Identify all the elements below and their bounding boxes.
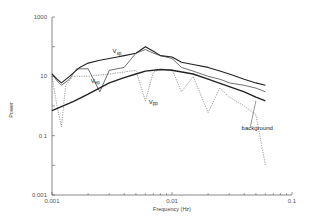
annotations: VspVepVppbackground	[91, 48, 273, 131]
y-tick-label: 0.1	[39, 133, 48, 139]
annotation-label: background	[242, 125, 273, 131]
annotation-label: Vep	[91, 78, 101, 86]
y-axis: 0.0010.1101000	[32, 14, 55, 198]
series-v-ep	[52, 50, 265, 92]
y-axis-title: Power	[8, 102, 14, 118]
y-tick-label: 1000	[34, 14, 48, 20]
x-axis: 0.0010.010.1	[44, 192, 296, 204]
annotation-label: Vpp	[149, 99, 159, 107]
x-tick-label: 0.001	[44, 198, 60, 204]
x-tick-label: 0.01	[166, 198, 178, 204]
plot-area	[52, 47, 265, 166]
series-v-sp	[52, 47, 265, 86]
x-axis-title: Frequency (Hz)	[153, 206, 191, 212]
y-tick-label: 10	[40, 73, 47, 79]
power-spectrum-chart: 0.0010.1101000 0.0010.010.1 Power Freque…	[0, 0, 313, 221]
background-leader-line	[250, 101, 255, 127]
annotation-label: Vsp	[113, 48, 122, 56]
x-tick-label: 0.1	[288, 198, 297, 204]
